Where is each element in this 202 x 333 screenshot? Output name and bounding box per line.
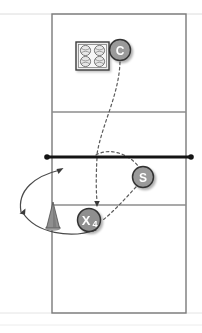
coach-marker-circle[interactable] [110,40,131,61]
diagram-canvas: C S X 4 [0,0,202,333]
marker-coach[interactable]: C [110,40,131,61]
marker-hitter[interactable]: X 4 [78,209,101,232]
volleyball-court-diagram: C S X 4 [0,0,202,333]
ball-icon [94,56,104,66]
net-post-left [44,154,50,160]
setter-marker-circle[interactable] [133,167,154,188]
net-post-right [188,154,194,160]
marker-setter[interactable]: S [133,167,154,188]
ball-icon [80,45,90,55]
ball-icon [80,56,90,66]
ball-cart [76,42,109,70]
ball-icon [94,45,104,55]
hitter-marker-circle[interactable] [78,209,101,232]
